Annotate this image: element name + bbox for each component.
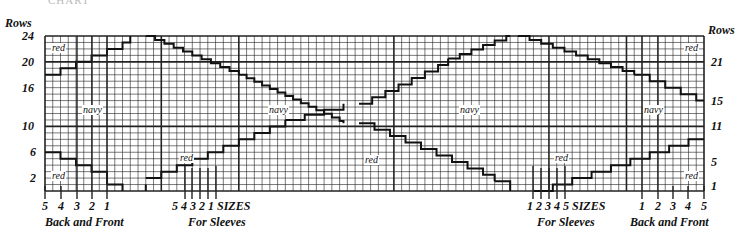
color-label-red: red <box>684 171 699 181</box>
color-label-red: red <box>51 43 66 53</box>
color-label-navy: navy <box>82 105 103 115</box>
color-label-navy: navy <box>643 105 664 115</box>
size-1: 1 <box>527 199 533 213</box>
left-axis-tick: 16 <box>22 82 34 94</box>
back-and-front-caption-right: Back and Front <box>630 216 709 228</box>
right-axis-tick: 1 <box>711 180 717 192</box>
color-label-red: red <box>684 43 699 53</box>
sizes-caption-left: SIZES <box>217 199 250 213</box>
size-number: 2 <box>655 200 661 212</box>
size-2: 2 <box>536 199 542 213</box>
size-4: 4 <box>181 199 187 213</box>
right-axis-tick: 11 <box>711 120 722 132</box>
size-number: 3 <box>670 200 676 212</box>
right-axis-tick: 15 <box>711 95 723 107</box>
color-label-navy: navy <box>268 105 289 115</box>
size-number: 1 <box>104 200 110 212</box>
size-number: 4 <box>685 200 691 212</box>
size-1: 1 <box>208 199 214 213</box>
color-label-red: red <box>179 153 194 163</box>
right-axis-tick: 5 <box>711 156 717 168</box>
left-axis-tick: 2 <box>30 172 36 184</box>
size-3: 3 <box>190 199 196 213</box>
color-label-red: red <box>51 171 66 181</box>
left-axis-tick: 10 <box>22 120 34 132</box>
right-axis-tick: 21 <box>711 56 723 68</box>
size-number: 1 <box>639 200 645 212</box>
size-number: 5 <box>42 200 48 212</box>
size-number: 3 <box>74 200 80 212</box>
color-label-red: red <box>554 153 569 163</box>
color-label-navy: navy <box>459 105 480 115</box>
for-sleeves-caption-left: For Sleeves <box>188 216 246 228</box>
size-5: 5 <box>563 199 569 213</box>
left-axis-tick: 6 <box>30 146 36 158</box>
sizes-left-numbers: 5 4 3 2 1 SIZES <box>172 200 250 212</box>
size-number: 5 <box>701 200 707 212</box>
color-label-red: red <box>364 155 379 165</box>
left-axis-tick: 20 <box>22 56 34 68</box>
size-2: 2 <box>199 199 205 213</box>
size-number: 2 <box>89 200 95 212</box>
sizes-right-numbers: 1 2 3 4 5 SIZES <box>527 200 605 212</box>
size-number: 4 <box>58 200 64 212</box>
size-5: 5 <box>172 199 178 213</box>
back-and-front-caption-left: Back and Front <box>45 216 124 228</box>
left-axis-tick: 24 <box>22 30 34 42</box>
sizes-caption-right: SIZES <box>572 199 605 213</box>
for-sleeves-caption-right: For Sleeves <box>537 216 595 228</box>
size-4: 4 <box>554 199 560 213</box>
size-3: 3 <box>545 199 551 213</box>
